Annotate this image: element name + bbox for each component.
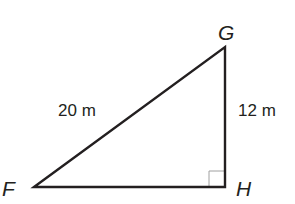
triangle-diagram: G F H 20 m 12 m	[0, 0, 295, 204]
side-label-fg: 20 m	[58, 102, 96, 119]
vertex-label-f: F	[2, 178, 15, 199]
vertex-label-h: H	[236, 178, 251, 199]
vertex-label-g: G	[218, 22, 234, 43]
right-angle-marker	[209, 171, 225, 187]
side-label-gh: 12 m	[238, 102, 276, 119]
